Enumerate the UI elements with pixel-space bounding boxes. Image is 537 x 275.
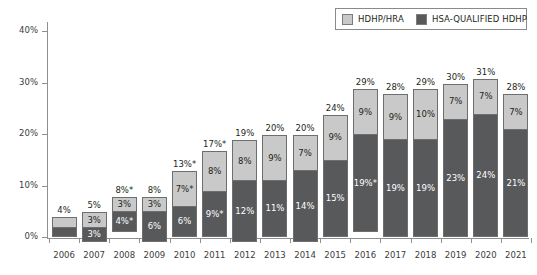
- bar-segment-hdhp-hra[interactable]: 10%: [413, 89, 438, 140]
- bar-2014[interactable]: 20%7%14%: [293, 135, 318, 238]
- x-axis-label-2006: 2006: [53, 250, 75, 260]
- bar-total-label: 31%: [476, 67, 495, 77]
- bar-2021[interactable]: 28%7%21%: [503, 94, 528, 238]
- y-tick-label: 0%: [25, 231, 39, 241]
- bar-segment-hsa-qualified-hdhp[interactable]: 21%: [503, 129, 528, 237]
- bar-segment-hsa-qualified-hdhp[interactable]: 9%*: [202, 191, 227, 237]
- x-tick: [501, 238, 502, 243]
- y-tick-10%: 10%: [42, 186, 47, 187]
- bar-segment-label: 3%: [87, 216, 101, 225]
- bar-segment-label: 6%: [148, 222, 162, 231]
- bar-segment-hdhp-hra[interactable]: 7%: [503, 94, 528, 130]
- x-axis-label-2021: 2021: [505, 250, 527, 260]
- bar-segment-hsa-qualified-hdhp[interactable]: 19%*: [353, 134, 378, 232]
- bar-segment-hdhp-hra[interactable]: 7%: [443, 84, 468, 120]
- bar-segment-hdhp-hra[interactable]: 9%: [323, 115, 348, 161]
- bar-segment-label: 7%: [479, 92, 493, 101]
- x-axis-label-2012: 2012: [234, 250, 256, 260]
- bar-segment-hdhp-hra[interactable]: 7%*: [172, 171, 197, 207]
- bar-segment-hsa-qualified-hdhp[interactable]: 23%: [443, 119, 468, 237]
- y-tick-label: 20%: [19, 128, 38, 138]
- bar-segment-hsa-qualified-hdhp[interactable]: [52, 227, 77, 237]
- bar-2008[interactable]: 8%*3%4%*: [112, 197, 137, 238]
- y-axis-line: [47, 22, 48, 238]
- bar-total-label: 20%: [296, 123, 315, 133]
- x-tick: [471, 238, 472, 243]
- bar-2010[interactable]: 13%*7%*6%: [172, 171, 197, 238]
- x-tick: [411, 238, 412, 243]
- x-tick: [441, 238, 442, 243]
- bar-segment-hdhp-hra[interactable]: 7%: [293, 135, 318, 171]
- bar-2012[interactable]: 19%8%12%: [232, 140, 257, 238]
- y-tick-30%: 30%: [42, 83, 47, 84]
- bar-segment-label: 8%: [238, 157, 252, 166]
- bar-segment-hdhp-hra[interactable]: 3%: [112, 197, 137, 212]
- bar-2009[interactable]: 8%3%6%: [142, 197, 167, 238]
- bar-2020[interactable]: 31%7%24%: [473, 79, 498, 238]
- bar-segment-label: 19%: [416, 184, 435, 193]
- bar-segment-label: 9%: [328, 133, 342, 142]
- bar-2015[interactable]: 24%9%15%: [323, 115, 348, 238]
- bar-total-label: 28%: [506, 82, 525, 92]
- bar-segment-hdhp-hra[interactable]: 3%: [82, 212, 107, 227]
- bar-segment-hdhp-hra[interactable]: 7%: [473, 79, 498, 115]
- bar-segment-hdhp-hra[interactable]: 9%: [383, 94, 408, 140]
- bar-segment-hsa-qualified-hdhp[interactable]: 11%: [262, 180, 287, 237]
- bar-2011[interactable]: 17%*8%9%*: [202, 151, 227, 238]
- bar-segment-hdhp-hra[interactable]: 9%: [353, 89, 378, 135]
- bar-segment-hsa-qualified-hdhp[interactable]: 6%: [172, 206, 197, 237]
- bar-segment-hsa-qualified-hdhp[interactable]: 15%: [323, 160, 348, 237]
- chart-root: HDHP/HRA HSA-QUALIFIED HDHP 0%10%20%30%4…: [0, 0, 537, 275]
- bar-segment-hsa-qualified-hdhp[interactable]: 12%: [232, 180, 257, 242]
- bar-total-label: 5%: [87, 200, 101, 210]
- bar-segment-hsa-qualified-hdhp[interactable]: 3%: [82, 227, 107, 242]
- x-axis-label-2007: 2007: [83, 250, 105, 260]
- x-axis-label-2016: 2016: [354, 250, 376, 260]
- bar-segment-label: 23%: [446, 174, 465, 183]
- bar-2006[interactable]: 4%: [52, 217, 77, 238]
- x-tick: [531, 238, 532, 243]
- bar-2013[interactable]: 20%9%11%: [262, 135, 287, 238]
- x-tick: [320, 238, 321, 243]
- bar-segment-hsa-qualified-hdhp[interactable]: 19%: [413, 139, 438, 237]
- bar-segment-hsa-qualified-hdhp[interactable]: 4%*: [112, 211, 137, 232]
- x-tick: [260, 238, 261, 243]
- bar-segment-hsa-qualified-hdhp[interactable]: 19%: [383, 139, 408, 237]
- bar-segment-label: 9%: [389, 113, 403, 122]
- bar-segment-hdhp-hra[interactable]: 8%: [202, 151, 227, 192]
- x-tick: [230, 238, 231, 243]
- bar-2017[interactable]: 28%9%19%: [383, 94, 408, 238]
- bar-2007[interactable]: 5%3%3%: [82, 212, 107, 238]
- bar-segment-label: 3%: [118, 200, 132, 209]
- bar-segment-hsa-qualified-hdhp[interactable]: 14%: [293, 170, 318, 242]
- bar-total-label: 29%: [356, 77, 375, 87]
- y-tick-40%: 40%: [42, 31, 47, 32]
- bar-total-label: 4%: [57, 205, 71, 215]
- bar-segment-label: 10%: [416, 110, 435, 119]
- bar-segment-label: 24%: [476, 171, 495, 180]
- bar-segment-label: 14%: [296, 202, 315, 211]
- x-tick: [200, 238, 201, 243]
- x-axis-label-2019: 2019: [445, 250, 467, 260]
- bar-segment-hdhp-hra[interactable]: 8%: [232, 140, 257, 181]
- bar-2019[interactable]: 30%7%23%: [443, 84, 468, 238]
- bar-2018[interactable]: 29%10%19%: [413, 89, 438, 238]
- bar-segment-label: 7%: [298, 149, 312, 158]
- bar-segment-label: 15%: [326, 194, 345, 203]
- bar-segment-label: 3%: [148, 200, 162, 209]
- bar-total-label: 28%: [386, 82, 405, 92]
- bar-segment-label: 3%: [87, 230, 101, 239]
- bar-total-label: 20%: [265, 123, 284, 133]
- x-tick: [350, 238, 351, 243]
- x-axis-line: [47, 238, 529, 239]
- bar-2016[interactable]: 29%9%19%*: [353, 89, 378, 238]
- x-axis-label-2015: 2015: [324, 250, 346, 260]
- bar-total-label: 29%: [416, 77, 435, 87]
- bar-segment-hsa-qualified-hdhp[interactable]: 6%: [142, 211, 167, 242]
- x-tick: [290, 238, 291, 243]
- bar-segment-hsa-qualified-hdhp[interactable]: 24%: [473, 114, 498, 237]
- x-tick: [139, 238, 140, 243]
- bar-segment-hdhp-hra[interactable]: 3%: [142, 197, 167, 212]
- bar-segment-label: 7%: [449, 97, 463, 106]
- bar-segment-hdhp-hra[interactable]: 9%: [262, 135, 287, 181]
